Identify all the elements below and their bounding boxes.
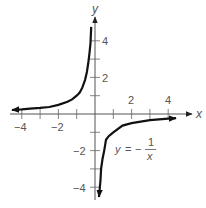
curve-left-branch [12,27,91,110]
equation-denominator: x [146,150,153,162]
x-axis-label: x [195,107,203,121]
y-tick-label: 2 [102,72,108,84]
x-tick-label: −4 [14,121,27,133]
curve-right-branch [99,118,176,197]
y-tick-label: −2 [73,145,86,157]
hyperbola-chart: y x −4 −2 2 4 4 2 −2 −4 y = − 1 x [0,0,206,208]
equation-minus: − [135,143,141,155]
x-tick-label: 2 [128,94,134,106]
equation-numerator: 1 [148,136,154,148]
x-tick-label: −2 [51,121,64,133]
y-tick-label: −4 [73,182,86,194]
y-tick-label: 4 [102,35,108,47]
equation-equals: = [125,143,131,155]
y-axis-label: y [91,2,99,16]
equation-annotation: y = − 1 x [114,136,156,162]
x-tick-label: 4 [165,94,171,106]
x-axis [10,109,192,119]
equation-lhs: y [114,143,122,155]
y-axis [90,17,100,200]
